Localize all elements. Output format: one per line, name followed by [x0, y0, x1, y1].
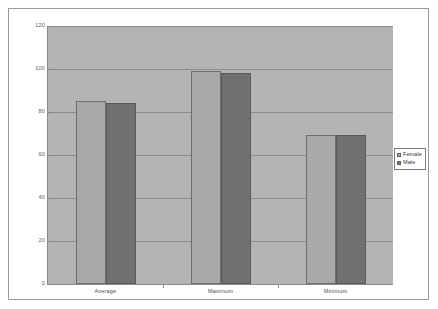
gridline	[48, 69, 393, 70]
y-tick-label: 120	[19, 23, 45, 29]
bar-average-female	[76, 101, 106, 284]
legend-item-female: Female	[397, 151, 422, 159]
y-tick-mark	[49, 155, 52, 156]
y-tick-mark	[49, 284, 52, 285]
y-tick-label: 20	[19, 238, 45, 244]
x-tick-mark	[163, 285, 164, 288]
y-axis-line	[47, 26, 48, 285]
y-tick-label: 60	[19, 152, 45, 158]
y-tick-label: 0	[19, 281, 45, 287]
x-tick-label-maximum: Maximum	[163, 289, 278, 295]
gridline	[48, 26, 393, 27]
chart-legend: Female Male	[394, 148, 426, 170]
legend-swatch-female-icon	[397, 153, 401, 157]
y-tick-label: 100	[19, 66, 45, 72]
chart-figure: 020406080100120 AverageMaximumMinimum Fe…	[8, 8, 429, 300]
bar-average-male	[106, 103, 136, 284]
plot-area	[48, 26, 393, 284]
y-tick-label: 40	[19, 195, 45, 201]
legend-swatch-male-icon	[397, 161, 401, 165]
bar-maximum-male	[221, 73, 251, 284]
x-tick-mark	[278, 285, 279, 288]
y-tick-mark	[49, 26, 52, 27]
bar-minimum-male	[336, 135, 366, 284]
y-tick-label: 80	[19, 109, 45, 115]
bar-minimum-female	[306, 135, 336, 284]
bar-maximum-female	[191, 71, 221, 284]
y-tick-mark	[49, 69, 52, 70]
y-tick-mark	[49, 198, 52, 199]
x-axis-line	[47, 284, 393, 285]
legend-label-female: Female	[403, 152, 422, 158]
legend-item-male: Male	[397, 159, 422, 167]
legend-label-male: Male	[403, 160, 415, 166]
y-tick-mark	[49, 112, 52, 113]
y-axis: 020406080100120	[13, 9, 45, 301]
x-tick-label-average: Average	[48, 289, 163, 295]
y-tick-mark	[49, 241, 52, 242]
x-tick-label-minimum: Minimum	[278, 289, 393, 295]
